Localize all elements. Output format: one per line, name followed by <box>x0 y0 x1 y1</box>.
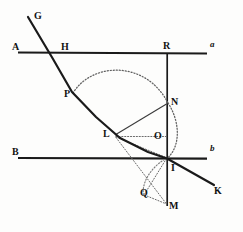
right-dotted-arc <box>168 103 178 158</box>
point-label-M: M <box>169 201 178 211</box>
point-label-N: N <box>171 97 178 107</box>
point-label-P: P <box>64 89 70 99</box>
point-label-L: L <box>103 129 110 139</box>
point-label-Q: Q <box>140 188 148 198</box>
point-label-A: A <box>12 42 19 52</box>
horizontal-line-a <box>18 53 207 54</box>
point-label-O: O <box>154 131 162 141</box>
point-label-R: R <box>163 41 170 51</box>
main-ray-g-k <box>28 17 214 185</box>
geometry-canvas <box>0 0 243 232</box>
line-label-a: a <box>210 40 215 49</box>
upper-dotted-arc <box>73 70 168 103</box>
point-label-H: H <box>61 42 69 52</box>
point-label-I: I <box>171 163 175 173</box>
point-label-G: G <box>34 11 42 21</box>
point-label-K: K <box>214 186 222 196</box>
figure-root: G A H R a P N L O B b I K Q M <box>0 0 243 232</box>
horizontal-line-b <box>18 158 207 159</box>
line-label-b: b <box>210 144 215 153</box>
point-label-B: B <box>12 147 19 157</box>
